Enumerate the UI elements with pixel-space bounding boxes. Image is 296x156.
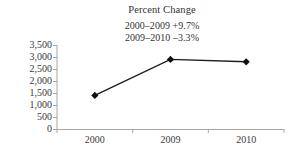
data-point-marker[interactable] xyxy=(167,56,174,63)
x-axis-tick-label: 2000 xyxy=(65,134,125,145)
data-point-marker[interactable] xyxy=(91,92,98,99)
data-series-markers xyxy=(91,56,250,99)
data-point-marker[interactable] xyxy=(243,58,250,65)
chart-figure: Percent Change 2000–2009 +9.7% 2009–2010… xyxy=(0,0,296,156)
y-axis-ticks xyxy=(53,46,57,130)
x-axis-tick-label: 2009 xyxy=(141,134,201,145)
data-series-line xyxy=(95,59,246,95)
x-axis-tick-label: 2010 xyxy=(216,134,276,145)
plot-area xyxy=(0,0,296,156)
